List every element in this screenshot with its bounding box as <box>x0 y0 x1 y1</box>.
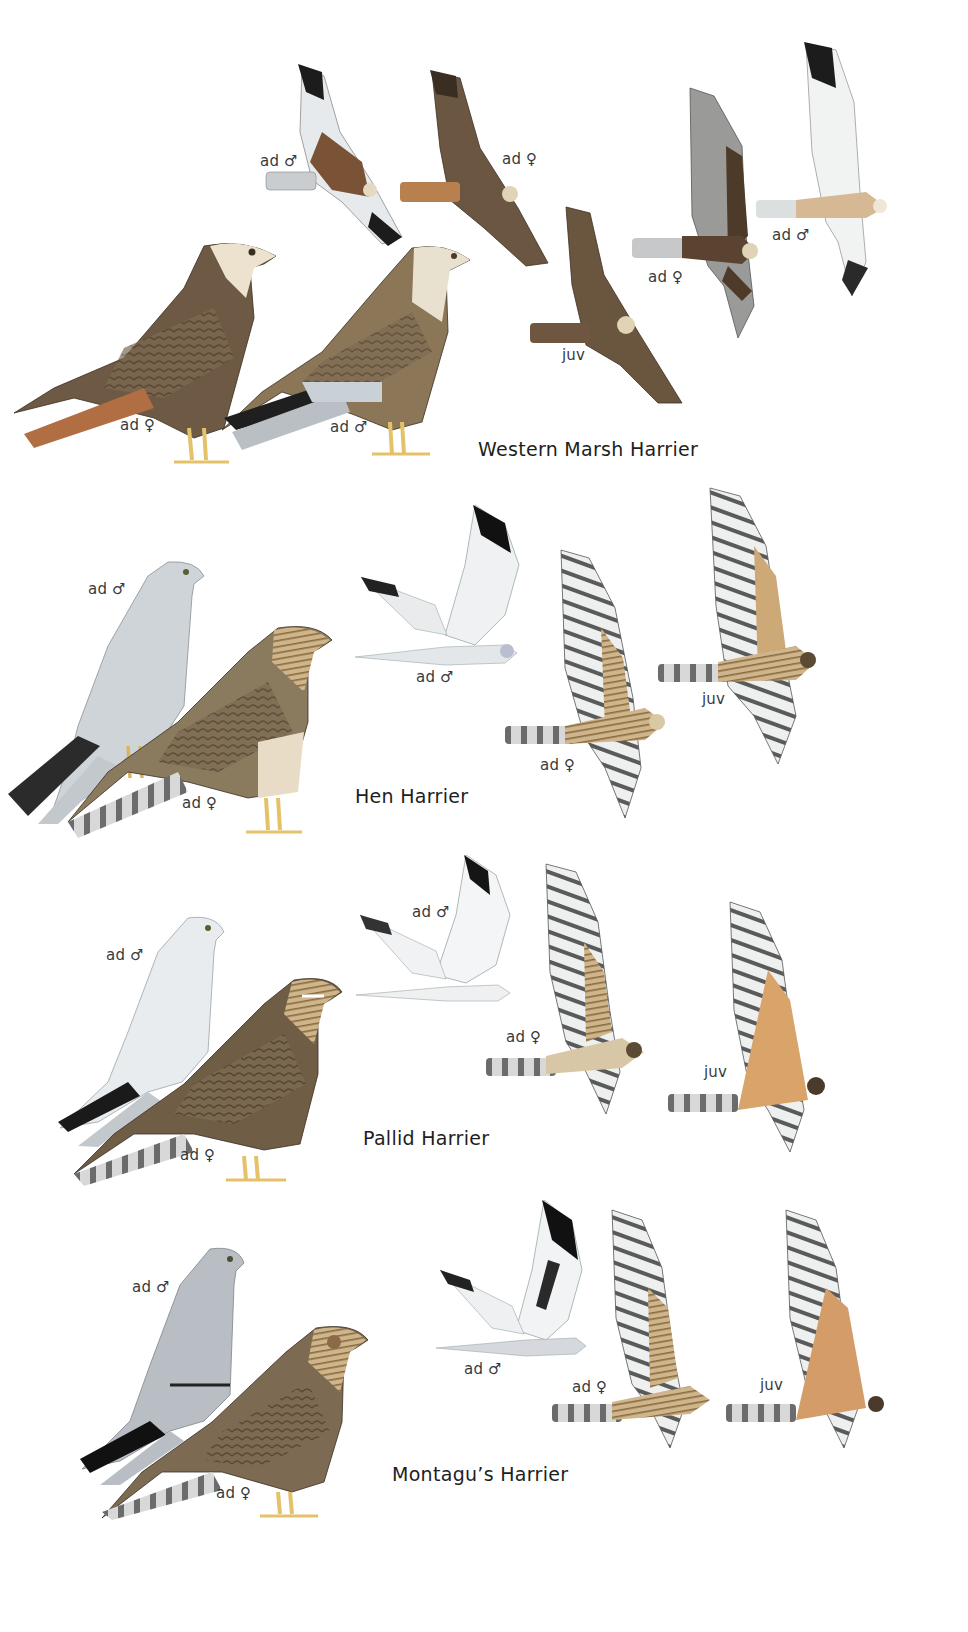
label-montagu-flight-juvenile: juv <box>760 1376 783 1394</box>
label-montagu-flight-male: ad ♂ <box>464 1360 502 1378</box>
label-montagu-flight-female: ad ♀ <box>572 1378 607 1396</box>
bird-illustration-montagu-flight-female <box>552 1208 714 1450</box>
label-montagu-perched-female: ad ♀ <box>216 1484 251 1502</box>
field-guide-plate: ad ♂ ad ♀ juv <box>0 0 968 1632</box>
section-montagus-harrier: ad ♂ ad ♀ ad ♂ <box>0 0 968 1632</box>
bird-illustration-montagu-flight-juvenile <box>726 1208 886 1450</box>
species-title-montagus-harrier: Montagu’s Harrier <box>392 1463 568 1485</box>
label-montagu-perched-male: ad ♂ <box>132 1278 170 1296</box>
